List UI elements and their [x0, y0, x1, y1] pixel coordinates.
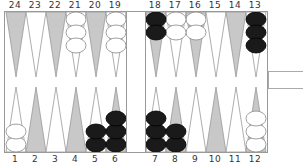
white-checker-point-19[interactable]: [106, 38, 126, 53]
white-checker-point-16[interactable]: [186, 25, 206, 40]
point-4[interactable]: [66, 87, 86, 152]
point-label-15: 15: [205, 0, 225, 10]
point-label-14: 14: [225, 0, 245, 10]
point-23[interactable]: [26, 12, 46, 77]
point-22[interactable]: [46, 12, 66, 77]
point-label-21: 21: [65, 0, 85, 10]
black-checker-point-13[interactable]: [246, 38, 266, 53]
black-checker-point-5[interactable]: [86, 124, 106, 139]
point-label-6: 6: [105, 154, 125, 164]
black-checker-point-18[interactable]: [146, 25, 166, 40]
white-checker-point-12[interactable]: [246, 111, 266, 126]
point-label-3: 3: [45, 154, 65, 164]
black-checker-point-6[interactable]: [106, 111, 126, 126]
point-label-5: 5: [85, 154, 105, 164]
point-label-22: 22: [45, 0, 65, 10]
point-10[interactable]: [206, 87, 226, 152]
doubling-cube-box[interactable]: [268, 71, 303, 89]
point-label-19: 19: [105, 0, 125, 10]
point-label-18: 18: [145, 0, 165, 10]
point-9[interactable]: [186, 87, 206, 152]
point-14[interactable]: [226, 12, 246, 77]
point-3[interactable]: [46, 87, 66, 152]
point-label-23: 23: [25, 0, 45, 10]
black-checker-point-8[interactable]: [166, 124, 186, 139]
white-checker-point-21[interactable]: [66, 38, 86, 53]
backgammon-board: [4, 11, 268, 153]
point-label-10: 10: [205, 154, 225, 164]
point-2[interactable]: [26, 87, 46, 152]
point-label-13: 13: [245, 0, 265, 10]
point-24[interactable]: [6, 12, 26, 77]
point-label-16: 16: [185, 0, 205, 10]
black-checker-point-7[interactable]: [146, 111, 166, 126]
point-label-24: 24: [5, 0, 25, 10]
point-label-2: 2: [25, 154, 45, 164]
bar[interactable]: [126, 12, 146, 152]
point-label-17: 17: [165, 0, 185, 10]
point-label-8: 8: [165, 154, 185, 164]
point-label-11: 11: [225, 154, 245, 164]
white-checker-point-1[interactable]: [6, 124, 26, 139]
point-label-7: 7: [145, 154, 165, 164]
point-label-4: 4: [65, 154, 85, 164]
point-20[interactable]: [86, 12, 106, 77]
point-11[interactable]: [226, 87, 246, 152]
point-label-9: 9: [185, 154, 205, 164]
point-15[interactable]: [206, 12, 226, 77]
point-label-12: 12: [245, 154, 265, 164]
point-label-1: 1: [5, 154, 25, 164]
white-checker-point-17[interactable]: [166, 25, 186, 40]
point-label-20: 20: [85, 0, 105, 10]
